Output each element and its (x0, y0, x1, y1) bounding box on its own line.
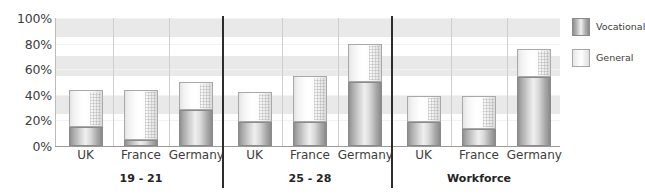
group-label: 25 - 28 (289, 172, 332, 185)
category-separator (169, 18, 170, 146)
x-axis-category-label: Germany (169, 148, 224, 162)
bar-segment-general (407, 96, 441, 122)
bar-segment-general (462, 96, 496, 129)
x-axis-category-label: UK (415, 148, 432, 162)
x-axis-category-label: Germany (507, 148, 562, 162)
hatch-texture (538, 51, 549, 75)
gridline (55, 44, 560, 45)
x-axis-category-label: Germany (338, 148, 393, 162)
legend-label: General (596, 52, 633, 63)
axis-baseline (55, 146, 560, 147)
group-separator (391, 16, 393, 188)
bar-segment-general (348, 44, 382, 82)
background-band (55, 56, 560, 75)
category-separator (507, 18, 508, 146)
stacked-bar (124, 90, 158, 146)
bar-segment-general (238, 92, 272, 121)
bar-segment-general (69, 90, 103, 127)
y-axis-tick-label: 0% (4, 139, 52, 154)
category-separator (282, 18, 283, 146)
x-axis-category-label: UK (246, 148, 263, 162)
group-label: 19 - 21 (120, 172, 163, 185)
hatch-texture (369, 46, 380, 80)
bar-segment-general (293, 76, 327, 122)
bar-segment-vocational (293, 122, 327, 146)
legend-label: Vocational (596, 21, 645, 32)
bar-segment-general (124, 90, 158, 140)
y-axis: 0%20%40%60%80%100% (0, 0, 52, 196)
x-axis-category-label: France (121, 148, 161, 162)
hatch-texture (145, 92, 156, 138)
stacked-bar (517, 49, 551, 146)
y-axis-tick-label: 60% (4, 62, 52, 77)
bar-segment-vocational (517, 77, 551, 146)
category-separator (451, 18, 452, 146)
x-axis-category-label: UK (77, 148, 94, 162)
bar-segment-vocational (238, 122, 272, 146)
hatch-texture (428, 98, 439, 120)
plot-left-edge (55, 18, 56, 146)
x-axis-category-label: France (290, 148, 330, 162)
bar-segment-vocational (348, 82, 382, 146)
y-axis-tick-label: 100% (4, 11, 52, 26)
bar-segment-vocational (462, 129, 496, 146)
background-band (55, 18, 560, 37)
general-swatch (572, 49, 590, 67)
stacked-bar (462, 96, 496, 146)
bar-segment-general (517, 49, 551, 77)
hatch-texture (483, 98, 494, 127)
vocational-swatch (572, 18, 590, 36)
stacked-bar (179, 82, 213, 146)
gridline (55, 18, 560, 19)
stacked-bar (238, 92, 272, 146)
bar-segment-vocational (124, 140, 158, 146)
hatch-texture (314, 78, 325, 120)
x-axis-category-label: France (459, 148, 499, 162)
bar-segment-vocational (179, 110, 213, 146)
stacked-bar (293, 76, 327, 146)
group-separator (222, 16, 224, 188)
bar-segment-vocational (69, 127, 103, 146)
category-separator (338, 18, 339, 146)
category-separator (113, 18, 114, 146)
hatch-texture (90, 92, 101, 125)
hatch-texture (200, 84, 211, 108)
group-label: Workforce (447, 172, 511, 185)
stacked-bar (407, 96, 441, 146)
bar-segment-vocational (407, 122, 441, 146)
bar-segment-general (179, 82, 213, 110)
stacked-bar (69, 90, 103, 146)
y-axis-tick-label: 40% (4, 87, 52, 102)
y-axis-tick-label: 20% (4, 113, 52, 128)
stacked-bar (348, 44, 382, 146)
y-axis-tick-label: 80% (4, 36, 52, 51)
gridline (55, 69, 560, 70)
hatch-texture (259, 94, 270, 119)
